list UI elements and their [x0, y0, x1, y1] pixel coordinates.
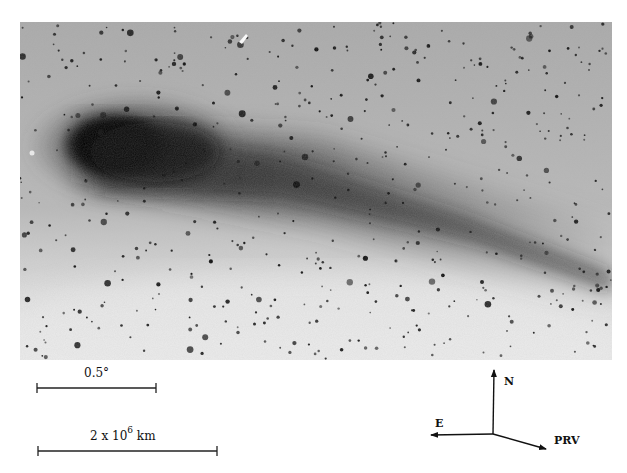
north-arrow — [493, 370, 494, 434]
compass-north-label: N — [504, 375, 514, 388]
east-arrow — [431, 434, 493, 435]
scale-bar-distance — [38, 446, 217, 456]
orientation-compass — [431, 370, 546, 449]
scale-bar-angle — [37, 383, 156, 393]
prv-arrow — [493, 434, 546, 449]
compass-east-label: E — [435, 417, 443, 430]
scale-bar-distance-label: 2 x 106 km — [90, 427, 156, 443]
annotations — [0, 0, 627, 473]
scale-bars — [37, 383, 217, 456]
scale-bar-angle-label: 0.5° — [84, 366, 109, 380]
compass-prv-label: PRV — [554, 434, 580, 447]
